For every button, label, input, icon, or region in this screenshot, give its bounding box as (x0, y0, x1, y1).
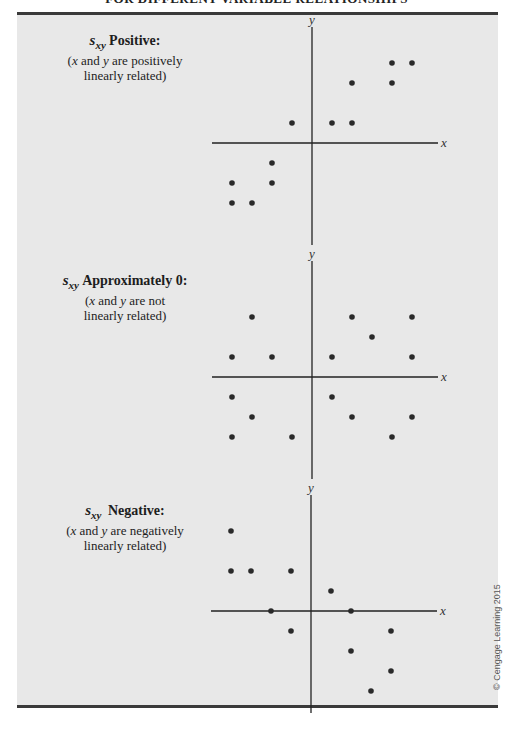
panel-1-data-point (249, 200, 255, 206)
panel-1-y-axis-label: y (307, 12, 315, 27)
panel-3-data-point (388, 628, 394, 634)
panel-3-data-point (388, 668, 394, 674)
panel-3-data-point (348, 648, 354, 654)
copyright-notice: © Cengage Learning 2015 (492, 584, 502, 690)
panel-1-x-axis-label: x (440, 135, 447, 150)
panel-2-data-point (329, 394, 335, 400)
panel-2-data-point (289, 434, 295, 440)
panel-3-data-point (268, 608, 274, 614)
panel-3-data-point (248, 568, 254, 574)
panel-1-data-point (389, 60, 395, 66)
panel-2-data-point (349, 314, 355, 320)
panel-2-data-point (409, 414, 415, 420)
panel-3-x-axis-label: x (439, 603, 446, 618)
panel-1-data-point (349, 120, 355, 126)
panel-3-data-point (328, 588, 334, 594)
panel-3-data-point (348, 608, 354, 614)
panel-2-data-point (249, 414, 255, 420)
panel-3-data-point (228, 568, 234, 574)
panel-3-data-point (288, 628, 294, 634)
panel-3-data-point (228, 528, 234, 534)
panel-3-data-point (288, 568, 294, 574)
panel-2-data-point (229, 354, 235, 360)
panel-2-data-point (369, 334, 375, 340)
panel-1-data-point (349, 80, 355, 86)
panel-2-x-axis-label: x (440, 369, 447, 384)
panel-1-data-point (229, 200, 235, 206)
panel-2-data-point (269, 354, 275, 360)
panel-1-data-point (409, 60, 415, 66)
panel-2-data-point (409, 314, 415, 320)
panel-2-data-point (349, 414, 355, 420)
panel-1-data-point (289, 120, 295, 126)
panel-2-data-point (229, 394, 235, 400)
panel-1-data-point (389, 80, 395, 86)
panel-1-data-point (229, 180, 235, 186)
panel-2-data-point (229, 434, 235, 440)
panel-2-data-point (249, 314, 255, 320)
panel-1-data-point (269, 160, 275, 166)
panel-2-y-axis-label: y (307, 246, 315, 261)
panel-2-data-point (409, 354, 415, 360)
panel-2-data-point (329, 354, 335, 360)
panel-1-data-point (329, 120, 335, 126)
scatter-plots: xyxyxy (0, 0, 513, 743)
panel-3-y-axis-label: y (306, 480, 314, 495)
panel-1-data-point (269, 180, 275, 186)
panel-2-data-point (389, 434, 395, 440)
panel-3-data-point (368, 688, 374, 694)
